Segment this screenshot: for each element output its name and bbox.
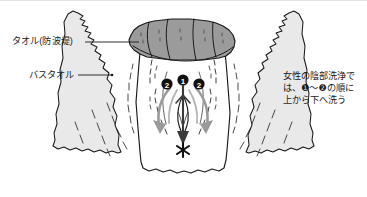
perineal-care-figure: 1 2 2 タオル(防波堤) バスタオル 女性の陰部洗浄で は、❶〜❷の順に 上… bbox=[0, 0, 367, 197]
rolled-towel-shape bbox=[129, 19, 235, 60]
caption-washing-order: 女性の陰部洗浄で は、❶〜❷の順に 上から下へ洗う bbox=[283, 70, 363, 107]
bath-towel-left bbox=[53, 11, 134, 156]
label-bath-towel: バスタオル bbox=[29, 70, 75, 82]
step-two-right-number: 2 bbox=[197, 81, 202, 90]
step-one-number: 1 bbox=[181, 77, 186, 86]
bath-towel-left-shape bbox=[53, 11, 121, 153]
step-marker-one: 1 bbox=[177, 74, 188, 85]
step-marker-two-left: 2 bbox=[161, 78, 172, 89]
label-towel-dam: タオル(防波堤) bbox=[12, 36, 73, 48]
step-marker-two-right: 2 bbox=[193, 78, 204, 89]
rolled-towel-dam bbox=[129, 19, 235, 61]
step-two-left-number: 2 bbox=[165, 81, 170, 90]
